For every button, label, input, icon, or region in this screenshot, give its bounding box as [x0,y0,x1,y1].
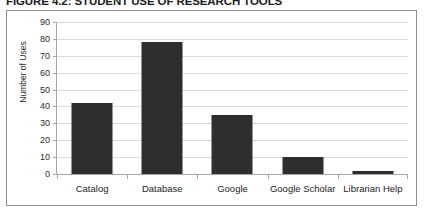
y-tick-label: 80 [40,34,50,44]
y-tick-label: 70 [40,51,50,61]
y-tick-label: 10 [40,152,50,162]
bar [212,115,253,174]
y-tick-label: 60 [40,68,50,78]
bar [282,157,323,174]
bar [72,103,113,174]
y-tick-label: 0 [45,169,50,179]
y-tick-label: 50 [40,85,50,95]
y-axis-title: Number of Uses [18,22,28,122]
bar [352,171,393,174]
y-tick-label: 90 [40,17,50,27]
y-tick-label: 20 [40,135,50,145]
x-tick-mark [197,174,198,179]
plot-area: 0102030405060708090 CatalogDatabaseGoogl… [56,22,408,175]
x-axis-label: Google [217,183,248,194]
bar-slot [268,22,338,174]
bar-slot [127,22,197,174]
bar [142,42,183,174]
figure-title: FIGURE 4.2: STUDENT USE OF RESEARCH TOOL… [6,0,406,8]
y-tick-label: 40 [40,101,50,111]
x-axis-label: Catalog [76,183,109,194]
bar-slot [197,22,267,174]
x-tick-mark [127,174,128,179]
x-tick-mark [57,174,58,179]
bar-slot [57,22,127,174]
x-axis-label: Librarian Help [343,183,402,194]
chart-frame: Number of Uses 0102030405060708090 Catal… [6,10,417,206]
x-tick-mark [338,174,339,179]
bar-slot [338,22,408,174]
gridline [57,174,408,175]
x-axis-label: Database [142,183,183,194]
bar-series [57,22,408,174]
x-axis-label: Google Scholar [270,183,335,194]
y-tick-label: 30 [40,118,50,128]
x-tick-mark [407,174,408,179]
x-tick-mark [268,174,269,179]
